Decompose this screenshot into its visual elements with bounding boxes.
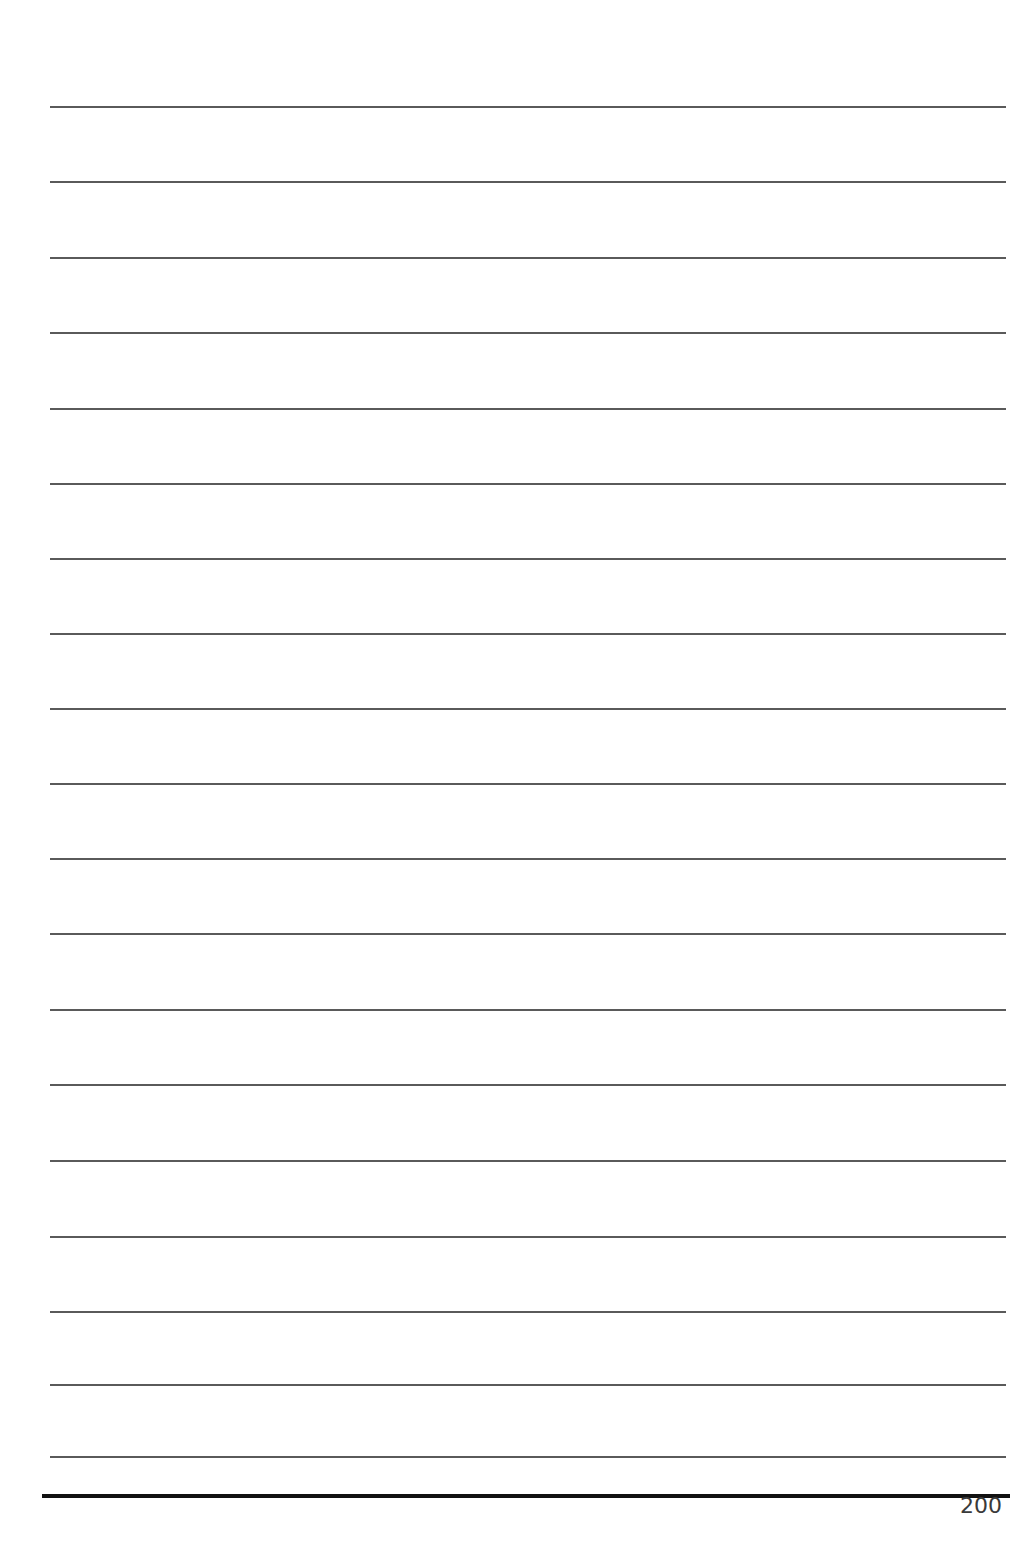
ruled-line xyxy=(50,1311,1006,1313)
ruled-line xyxy=(50,558,1006,560)
notebook-page: 200 xyxy=(0,0,1029,1553)
ruled-line xyxy=(50,1009,1006,1011)
ruled-line xyxy=(50,783,1006,785)
ruled-line xyxy=(50,1236,1006,1238)
ruled-line xyxy=(50,332,1006,334)
ruled-line xyxy=(50,408,1006,410)
ruled-line xyxy=(50,1456,1006,1458)
footer-baseline xyxy=(42,1494,1010,1498)
ruled-line xyxy=(50,858,1006,860)
ruled-line xyxy=(50,933,1006,935)
ruled-line xyxy=(50,257,1006,259)
ruled-line xyxy=(50,181,1006,183)
ruled-line xyxy=(50,1160,1006,1162)
ruled-line xyxy=(50,708,1006,710)
page-number: 200 xyxy=(960,1494,1012,1518)
ruled-line xyxy=(50,1084,1006,1086)
ruled-line xyxy=(50,483,1006,485)
ruled-line xyxy=(50,633,1006,635)
ruled-line xyxy=(50,1384,1006,1386)
ruled-line xyxy=(50,106,1006,108)
